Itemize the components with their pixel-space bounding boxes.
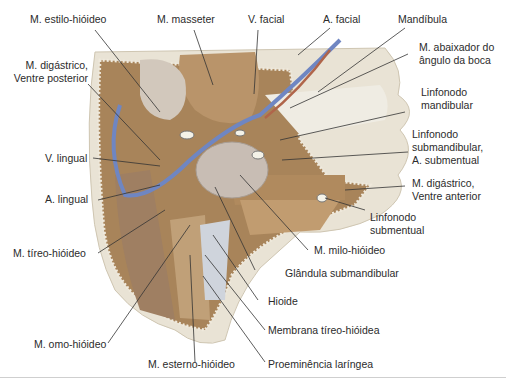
label-m-milo-hioideo: M. milo-hióideo [314,244,385,256]
label-a-facial: A. facial [323,13,360,25]
label-hioide: Hioide [268,295,298,307]
label-v-lingual: V. lingual [45,152,87,164]
label-digastrico-anterior-line1: M. digástrico, [412,177,474,189]
label-membrana-tireo-hioidea: Membrana tíreo-hióidea [268,324,379,336]
label-m-masseter: M. masseter [157,13,215,25]
node-parotid [180,131,194,139]
label-linfonodo-submentual-line1: Linfonodo [370,211,416,223]
label-m-estilo-hioideo: M. estilo-hióideo [30,13,106,25]
label-linfonodo-mandibular-line1: Linfonodo [421,86,467,98]
bottom-divider [0,377,506,378]
submandibular-gland [196,142,268,198]
label-linfonodo-submentual-line2: submentual [370,224,424,236]
label-linfonodo-submandibular-line1: Linfonodo [412,128,458,140]
label-proeminencia-laringea: Proeminência laríngea [268,358,373,370]
label-v-facial: V. facial [248,13,284,25]
label-digastrico-anterior-line2: Ventre anterior [412,190,481,202]
thyrohyoid-membrane [200,220,230,300]
label-linfonodo-mandibular-line2: mandibular [421,99,473,111]
label-linfonodo-submandibular-line2: submandibular, [412,141,483,153]
label-a-lingual: A. lingual [45,193,88,205]
label-mandibula: Mandíbula [398,13,447,25]
label-m-abaixador-line2: ângulo da boca [419,54,491,66]
node-mandibular [235,130,245,136]
label-digastrico-posterior-line1: M. digástrico, [10,59,88,71]
node-submandibular [252,151,264,159]
label-m-tireo-hioideo: M. tíreo-hióideo [13,247,86,259]
label-digastrico-posterior-line2: Ventre posterior [0,72,88,84]
anatomy-figure: M. estilo-hióideo M. masseter V. facial … [0,0,506,388]
label-m-abaixador-line1: M. abaixador do [419,41,494,53]
label-m-omo-hioideo: M. omo-hióideo [34,338,106,350]
label-a-submentual: A. submentual [412,154,479,166]
label-m-esterno-hioideo: M. esterno-hióideo [148,358,235,370]
label-glandula-submandibular: Glândula submandibular [285,267,399,279]
